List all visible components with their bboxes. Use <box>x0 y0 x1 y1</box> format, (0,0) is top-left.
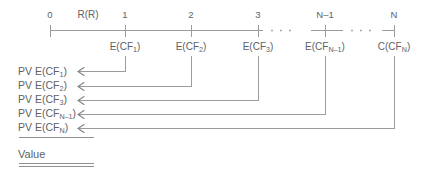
period-label-n-minus-1: N–1 <box>316 10 333 20</box>
cash-flow-label-n-minus-1-sub: N–1 <box>328 45 341 54</box>
period-label-2: 2 <box>188 10 193 20</box>
cash-flow-label-2-prefix: E(CF <box>176 41 199 52</box>
discount-rate-label: R(R) <box>77 10 98 20</box>
cash-flow-label-n: C(CFN) <box>378 42 410 52</box>
pv-label-3-suffix: ) <box>63 93 67 105</box>
cash-flow-label-3-prefix: E(CF <box>243 41 266 52</box>
pv-label-1: PV E(CF1) <box>18 66 67 77</box>
cash-flow-label-n-prefix: C(CF <box>378 41 402 52</box>
ellipsis-dot <box>360 30 362 32</box>
period-label-n: N <box>391 10 398 20</box>
cash-flow-label-2-suffix: ) <box>203 41 206 52</box>
cash-flow-label-n-minus-1-suffix: ) <box>342 41 345 52</box>
cash-flow-label-n-sub: N <box>402 45 407 54</box>
ellipsis-dot <box>271 30 273 32</box>
pv-label-n-minus-1-sub: N–1 <box>59 112 72 121</box>
period-label-1: 1 <box>122 10 127 20</box>
pv-label-n-sub: N <box>59 126 64 135</box>
cash-flow-label-1-sub: 1 <box>133 45 137 54</box>
pv-label-3-sub: 3 <box>59 98 63 107</box>
cash-flow-label-3-suffix: ) <box>270 41 273 52</box>
pv-label-2-suffix: ) <box>63 79 67 91</box>
cash-flow-label-n-minus-1: E(CFN–1) <box>305 42 345 52</box>
pv-label-2: PV E(CF2) <box>18 80 67 91</box>
cash-flow-label-n-minus-1-prefix: E(CF <box>305 41 328 52</box>
pv-label-n-minus-1-suffix: ) <box>73 107 77 119</box>
cash-flow-label-1-prefix: E(CF <box>110 41 133 52</box>
pv-label-n: PV E(CFN) <box>18 122 68 133</box>
cash-flow-label-2: E(CF2) <box>176 42 207 52</box>
pv-label-1-prefix: PV E(CF <box>18 65 59 77</box>
pv-label-3: PV E(CF3) <box>18 94 67 105</box>
cash-flow-label-1: E(CF1) <box>110 42 141 52</box>
cash-flow-label-1-suffix: ) <box>137 41 140 52</box>
ellipsis-dot <box>289 30 291 32</box>
cash-flow-label-n-suffix: ) <box>407 41 410 52</box>
pv-label-1-suffix: ) <box>63 65 67 77</box>
ellipsis-dot <box>351 30 353 32</box>
pv-label-n-minus-1: PV E(CFN–1) <box>18 108 76 119</box>
pv-label-2-sub: 2 <box>59 84 63 93</box>
pv-label-2-prefix: PV E(CF <box>18 79 59 91</box>
pv-label-3-prefix: PV E(CF <box>18 93 59 105</box>
ellipsis-dot <box>369 30 371 32</box>
pv-label-1-sub: 1 <box>59 70 63 79</box>
cash-flow-timeline-diagram: 0 1 2 3 N–1 N R(R) E(CF1) E(CF2) E(CF3) … <box>0 0 428 181</box>
pv-label-n-suffix: ) <box>65 121 69 133</box>
pv-label-n-prefix: PV E(CF <box>18 121 59 133</box>
ellipsis-dot <box>280 30 282 32</box>
period-label-0: 0 <box>47 10 52 20</box>
value-total-label: Value <box>18 149 45 160</box>
cash-flow-label-3: E(CF3) <box>243 42 274 52</box>
period-label-3: 3 <box>255 10 260 20</box>
cash-flow-label-3-sub: 3 <box>266 45 270 54</box>
cash-flow-label-2-sub: 2 <box>199 45 203 54</box>
pv-label-n-minus-1-prefix: PV E(CF <box>18 107 59 119</box>
